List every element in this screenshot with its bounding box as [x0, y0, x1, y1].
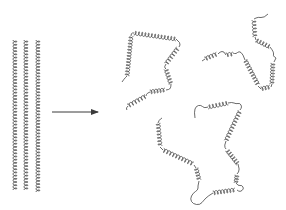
helix-segment [270, 63, 275, 84]
native-helical-strands [13, 40, 40, 192]
random-coil-segment [258, 86, 261, 89]
denaturation-diagram [0, 0, 286, 210]
alpha-helix-strand-1 [13, 40, 17, 190]
random-coil-segment [122, 76, 127, 82]
random-coil-segment [202, 59, 205, 61]
helix-segment [226, 52, 233, 57]
alpha-helix-strand-3 [36, 40, 40, 192]
helix-segment [224, 110, 241, 140]
random-coil-segment [166, 84, 171, 90]
helix-segment [234, 175, 239, 183]
helix-segment [244, 59, 260, 85]
helix-segment [225, 150, 238, 165]
chain-upper-right [202, 14, 276, 91]
chain-bottom [156, 101, 243, 204]
helix-segment [127, 94, 146, 107]
random-coil-segment [131, 33, 134, 36]
random-coil-segment [225, 141, 226, 149]
random-coil-segment [126, 106, 128, 110]
random-coil-segment [191, 186, 213, 205]
helix-segment [156, 123, 162, 146]
helix-segment [150, 88, 165, 94]
helix-segment [125, 36, 133, 76]
random-coil-segment [165, 64, 166, 69]
helix-segment [252, 20, 257, 37]
random-coil-segment [271, 84, 272, 87]
helix-segment [261, 85, 270, 91]
random-coil-segment [237, 164, 239, 174]
random-coil-segment [160, 147, 163, 150]
helix-segment [164, 47, 178, 64]
helix-segment [164, 148, 194, 165]
helix-segment [164, 70, 172, 85]
diagram-svg [0, 0, 286, 210]
denatured-chains [122, 14, 276, 205]
random-coil-segment [236, 183, 243, 191]
random-coil-segment [198, 181, 199, 186]
chain-upper-left [122, 31, 180, 110]
random-coil-segment [274, 58, 276, 62]
random-coil-segment [270, 47, 276, 58]
random-coil-segment [255, 37, 256, 40]
random-coil-segment [218, 51, 226, 55]
helix-segment [213, 188, 235, 195]
helix-segment [134, 31, 176, 41]
random-coil-segment [233, 52, 245, 60]
random-coil-segment [254, 14, 268, 19]
helix-segment [194, 168, 201, 180]
random-coil-segment [146, 92, 150, 96]
random-coil-segment [176, 39, 180, 47]
helix-segment [204, 52, 216, 60]
random-coil-segment [195, 105, 209, 118]
helix-segment [208, 101, 228, 109]
random-coil-segment [228, 103, 242, 111]
helix-segment [255, 39, 270, 49]
random-coil-segment [158, 118, 162, 123]
alpha-helix-strand-2 [24, 40, 28, 190]
random-coil-segment [194, 165, 196, 168]
